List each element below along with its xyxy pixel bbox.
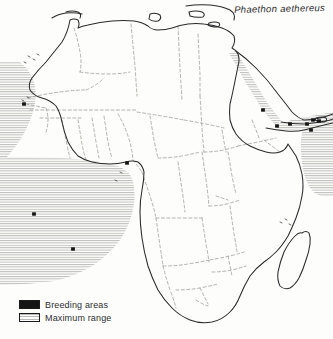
maximum-range-areas (0, 51, 333, 285)
legend-item-breeding: Breeding areas (19, 299, 111, 310)
breeding-point-socotra-west (311, 118, 315, 121)
breeding-point-arabian-sea-island (309, 128, 313, 131)
range-band-red-sea (229, 51, 281, 126)
legend-label-range: Maximum range (45, 313, 111, 323)
range-band-east-atlantic (0, 62, 36, 160)
levant-coast (186, 5, 235, 20)
crete-island (189, 11, 204, 17)
legend-item-range: Maximum range (19, 312, 111, 323)
canary-islands (24, 54, 39, 63)
breeding-point-cape-verde-senegal-coast (22, 102, 26, 105)
distribution-map-figure: Phaethon aethereus Breeding areas Maximu… (0, 0, 333, 339)
map-legend: Breeding areas Maximum range (19, 299, 111, 323)
breeding-point-socotra-east (317, 119, 321, 122)
legend-label-breeding: Breeding areas (45, 300, 108, 310)
madagascar-island (278, 232, 311, 289)
europe-fragment (66, 11, 81, 18)
iberia-coast (52, 13, 82, 18)
map-canvas (0, 0, 333, 339)
species-name-label: Phaethon aethereus (234, 2, 325, 15)
breeding-point-south-atlantic-island-south (71, 247, 75, 250)
range-band-gulf-of-guinea (0, 157, 135, 285)
breeding-point-gulf-of-aden-west (275, 124, 279, 127)
sicily-island (149, 13, 161, 21)
range-band-somali-coast (301, 120, 333, 197)
breeding-point-horn-of-africa-coast (305, 122, 309, 125)
breeding-swatch-icon (19, 300, 40, 309)
breeding-point-red-sea-island (261, 108, 265, 111)
range-swatch-icon (19, 313, 40, 322)
breeding-point-south-atlantic-island-north (32, 212, 36, 215)
breeding-point-gulf-of-guinea-coast (125, 161, 129, 164)
breeding-point-gulf-of-aden-mid (288, 122, 292, 125)
comoros-islands (280, 219, 291, 225)
